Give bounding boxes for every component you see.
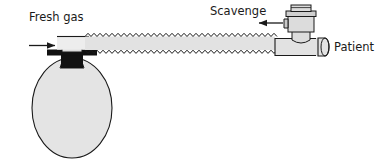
valve-barrel bbox=[288, 16, 314, 32]
reservoir-bag-body bbox=[32, 58, 112, 158]
tube-corrugated-fill bbox=[85, 37, 275, 51]
valve-top-cap bbox=[291, 5, 311, 12]
scavenge-label: Scavenge bbox=[210, 4, 266, 18]
valve-shoulder bbox=[292, 31, 310, 43]
circuit-illustration: Fresh gas Scavenge Patient bbox=[0, 0, 389, 167]
fresh-gas-label: Fresh gas bbox=[29, 10, 84, 24]
valve-side-nipple bbox=[284, 19, 288, 28]
tube-proximal-fill bbox=[57, 37, 89, 50]
breathing-circuit-diagram: Fresh gas Scavenge Patient bbox=[0, 0, 389, 167]
patient-label: Patient bbox=[334, 40, 375, 54]
reservoir-bag bbox=[32, 58, 112, 158]
